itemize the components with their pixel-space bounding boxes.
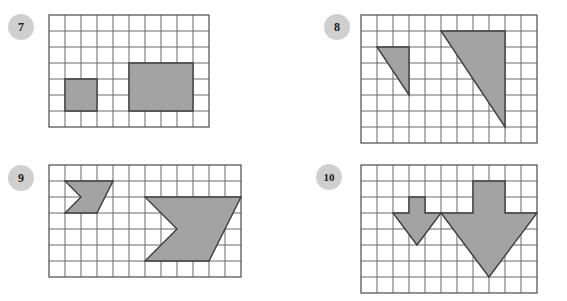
grid-svg-10 <box>360 164 538 294</box>
small-arrow <box>393 197 441 245</box>
grid-8 <box>360 14 538 144</box>
grid-svg-7 <box>48 14 210 128</box>
large-rectangle <box>129 63 193 111</box>
problem-number-badge-8: 8 <box>324 14 350 40</box>
grid-svg-8 <box>360 14 538 144</box>
worksheet-page: 7 8 9 10 <box>0 0 567 301</box>
grid-7 <box>48 14 210 128</box>
problem-number-badge-9: 9 <box>8 165 34 191</box>
grid-svg-9 <box>48 164 242 278</box>
grid-9 <box>48 164 242 278</box>
problem-number-badge-7: 7 <box>8 14 34 40</box>
problem-number-badge-10: 10 <box>316 164 342 190</box>
large-arrow <box>441 181 537 277</box>
grid-10 <box>360 164 538 294</box>
small-rectangle <box>65 79 97 111</box>
